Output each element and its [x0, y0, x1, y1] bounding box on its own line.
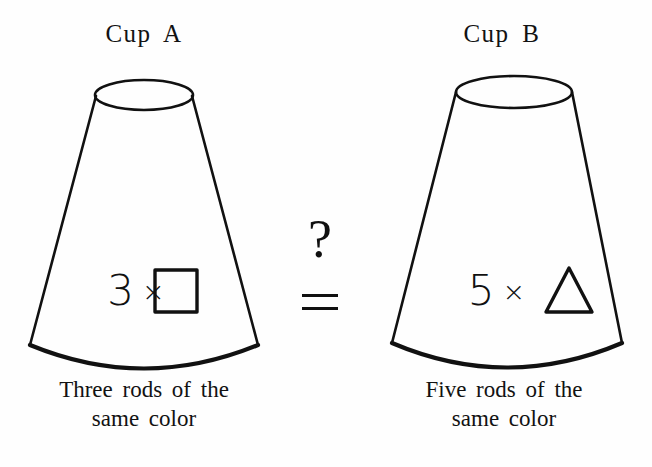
cup-b-rim	[456, 76, 572, 108]
questioned-equals-symbol: ?	[288, 212, 352, 322]
cup-b-caption-line-2: same color	[368, 404, 640, 433]
cup-b-count: 5	[468, 270, 495, 312]
cup-b-multiplication-icon: ×	[502, 278, 527, 305]
cup-a-base	[30, 345, 258, 369]
cup-a-count: 3	[107, 270, 134, 312]
cup-a-caption-line-2: same color	[8, 404, 280, 433]
cup-a-drawing	[30, 80, 258, 369]
cup-b-contents: 5 ×	[418, 262, 583, 320]
cup-a-multiplication-icon: ×	[141, 278, 166, 305]
cup-a-title: Cup A	[44, 20, 244, 48]
cup-b-title: Cup B	[402, 20, 602, 48]
cup-b-caption-line-1: Five rods of the	[368, 375, 640, 404]
equals-bar-top	[302, 294, 338, 297]
cup-b-base	[392, 343, 622, 368]
cup-b-drawing	[392, 76, 622, 368]
cup-a-caption-line-1: Three rods of the	[8, 375, 280, 404]
cup-a-contents: 3 ×	[60, 262, 220, 320]
cup-a-caption: Three rods of the same color	[8, 375, 280, 433]
question-mark-icon: ?	[288, 212, 352, 266]
cup-comparison-figure: Cup A 3 × Three rods of the same color ?…	[0, 0, 652, 467]
cup-a-rim	[95, 80, 193, 110]
cup-b-caption: Five rods of the same color	[368, 375, 640, 433]
equals-bar-bottom	[302, 307, 338, 310]
